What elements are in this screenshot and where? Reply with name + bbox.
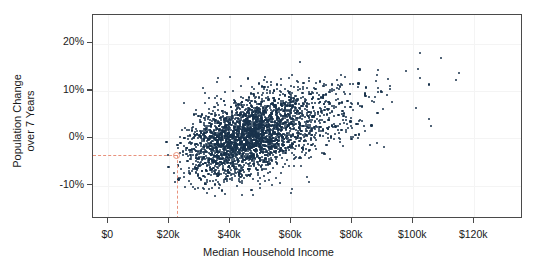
reference-guides — [93, 15, 521, 217]
y-axis-title-line2: over 7 Years — [24, 31, 37, 211]
highlighted-point-marker — [173, 152, 180, 159]
scatter-plot-figure: -10%0%10%20%$0$20k$40k$60k$80k$100k$120k… — [0, 0, 537, 271]
y-tick-mark — [87, 137, 92, 138]
plot-panel — [92, 14, 522, 218]
x-tick-mark — [168, 218, 169, 223]
y-axis-title-line1: Population Change — [11, 31, 24, 211]
x-tick-label: $120k — [433, 229, 513, 240]
x-tick-mark — [412, 218, 413, 223]
y-tick-label: -10% — [30, 179, 84, 190]
x-tick-mark — [473, 218, 474, 223]
x-tick-mark — [290, 218, 291, 223]
y-tick-label: 10% — [30, 84, 84, 95]
x-tick-mark — [351, 218, 352, 223]
y-tick-label: 0% — [30, 131, 84, 142]
reference-line-horizontal — [93, 155, 177, 156]
y-axis-title: Population Change over 7 Years — [11, 31, 37, 211]
y-tick-mark — [87, 184, 92, 185]
x-tick-mark — [229, 218, 230, 223]
x-axis-title: Median Household Income — [0, 246, 537, 258]
y-tick-mark — [87, 42, 92, 43]
y-tick-label: 20% — [30, 36, 84, 47]
reference-line-vertical — [177, 155, 178, 218]
x-tick-mark — [107, 218, 108, 223]
y-tick-mark — [87, 89, 92, 90]
